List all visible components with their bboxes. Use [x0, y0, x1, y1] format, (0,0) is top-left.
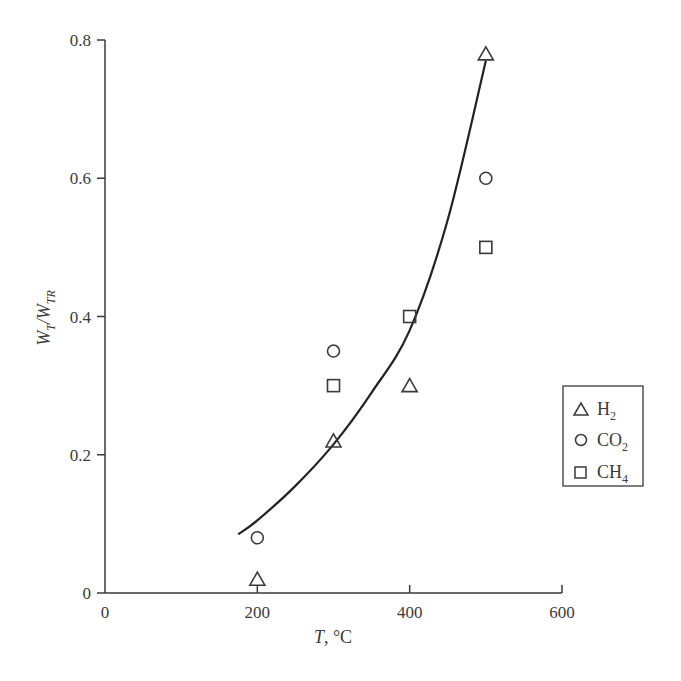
square-marker	[480, 241, 492, 253]
x-tick-label: 600	[549, 603, 575, 622]
circle-marker	[251, 532, 263, 544]
chart: 020040060000.20.40.60.8 T, °C WT/WTR H2 …	[0, 0, 681, 681]
axes	[97, 40, 562, 593]
circle-marker	[480, 172, 492, 184]
y-tick-label: 0	[83, 584, 92, 603]
square-marker	[328, 380, 340, 392]
x-tick-label: 200	[245, 603, 271, 622]
fit-curve	[238, 61, 486, 535]
triangle-marker	[250, 572, 265, 585]
x-tick-label: 0	[101, 603, 110, 622]
y-tick-label: 0.8	[70, 31, 91, 50]
triangle-marker	[402, 379, 417, 392]
tick-labels: 020040060000.20.40.60.8	[70, 31, 575, 622]
x-axis-label: T, °C	[314, 627, 352, 647]
y-tick-label: 0.2	[70, 446, 91, 465]
x-tick-label: 400	[397, 603, 423, 622]
circle-marker	[328, 345, 340, 357]
y-tick-label: 0.4	[70, 308, 92, 327]
triangle-marker	[478, 47, 493, 60]
legend: H2 CO2 CH4	[563, 386, 643, 486]
data-markers	[250, 47, 494, 585]
y-tick-label: 0.6	[70, 169, 91, 188]
y-axis-label: WT/WTR	[34, 289, 58, 345]
